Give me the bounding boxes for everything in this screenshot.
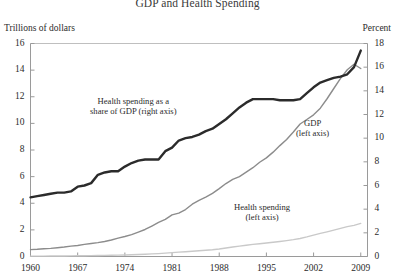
x-axis-tick-label: 1974 — [105, 263, 145, 273]
left-axis-tick-label: 4 — [5, 197, 25, 207]
x-axis-tick-label: 2002 — [294, 263, 334, 273]
health-spending-annotation-line-1: (left axis) — [234, 212, 290, 222]
series-line-1 — [31, 64, 361, 249]
right-axis-tick-label: 10 — [375, 132, 395, 142]
left-axis-tick-label: 8 — [5, 144, 25, 154]
left-axis-tick-label: 0 — [5, 251, 25, 261]
x-axis-tick-label: 1967 — [58, 263, 98, 273]
left-axis-tick-label: 2 — [5, 224, 25, 234]
x-axis-tick-label: 1988 — [199, 263, 239, 273]
right-axis-tick-label: 6 — [375, 180, 395, 190]
gdp-annotation: GDP(left axis) — [296, 118, 329, 138]
right-axis-tick-label: 0 — [375, 251, 395, 261]
x-axis-tick-label: 1995 — [246, 263, 286, 273]
plot-area — [0, 0, 395, 276]
health-spending-annotation-line-0: Health spending — [234, 202, 290, 212]
left-axis-tick-label: 10 — [5, 117, 25, 127]
x-axis-tick-label: 1960 — [11, 263, 51, 273]
right-axis-tick-label: 4 — [375, 203, 395, 213]
left-axis-tick-label: 6 — [5, 171, 25, 181]
right-axis-tick-label: 2 — [375, 227, 395, 237]
left-axis-tick-label: 12 — [5, 91, 25, 101]
right-axis-tick-label: 16 — [375, 61, 395, 71]
right-axis-tick-label: 8 — [375, 156, 395, 166]
left-axis-tick-label: 16 — [5, 38, 25, 48]
left-axis-tick-label: 14 — [5, 64, 25, 74]
chart-container: GDP and Health Spending Trillions of dol… — [0, 0, 395, 276]
right-axis-tick-label: 12 — [375, 109, 395, 119]
health-share-annotation: Health spending as ashare of GDP (right … — [90, 96, 177, 116]
gdp-annotation-line-1: (left axis) — [296, 128, 329, 138]
health-share-annotation-line-1: share of GDP (right axis) — [90, 106, 177, 116]
x-axis-tick-label: 2009 — [341, 263, 381, 273]
x-axis-tick-label: 1981 — [152, 263, 192, 273]
right-axis-tick-label: 14 — [375, 85, 395, 95]
right-axis-tick-label: 18 — [375, 38, 395, 48]
health-share-annotation-line-0: Health spending as a — [90, 96, 177, 106]
gdp-annotation-line-0: GDP — [296, 118, 329, 128]
series-line-2 — [31, 223, 361, 256]
health-spending-annotation: Health spending(left axis) — [234, 202, 290, 222]
